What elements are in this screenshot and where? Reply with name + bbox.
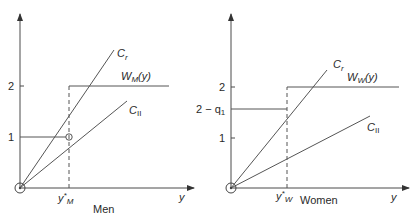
women-caption: Women	[300, 194, 338, 206]
women-c-ii-label: CII	[367, 121, 379, 135]
men-tick-1-label: 1	[8, 131, 14, 143]
women-c-ii-line	[231, 116, 370, 188]
women-w-label: WW(y)	[347, 71, 378, 85]
men-caption: Men	[93, 203, 114, 215]
men-ystar-label: y*M	[57, 191, 74, 206]
men-c-ii-label: CII	[129, 104, 141, 118]
women-c-r-label: Cr	[333, 58, 344, 73]
men-tick-2-label: 2	[8, 80, 14, 92]
men-c-ii-line	[20, 101, 127, 188]
men-panel: 2 1 Cr WM(y) CII y*M y Men	[8, 14, 194, 215]
men-origin-dot	[19, 187, 21, 189]
women-tick-2-label: 2	[219, 81, 225, 93]
women-panel: 2 1 2 − q1 Cr WW(y) CII y*W y Women	[196, 14, 409, 206]
men-c-r-line	[20, 50, 114, 188]
men-x-label: y	[178, 191, 186, 203]
women-origin-dot	[230, 187, 232, 189]
men-w-label: WM(y)	[121, 70, 151, 84]
women-ystar-label: y*W	[275, 189, 294, 204]
men-c-r-label: Cr	[117, 47, 128, 62]
women-x-label: y	[390, 191, 398, 203]
women-tick-2-minus-q1-label: 2 − q1	[196, 103, 226, 117]
diagram-canvas: 2 1 Cr WM(y) CII y*M y Men 2 1 2 − q1 Cr	[0, 0, 415, 221]
women-c-r-line	[231, 70, 327, 188]
women-tick-1-label: 1	[219, 132, 225, 144]
